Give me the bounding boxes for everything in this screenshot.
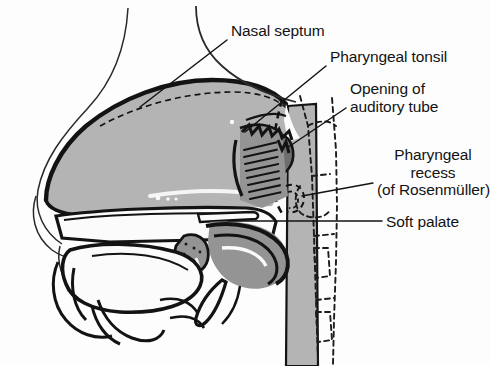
label-soft-palate: Soft palate [386,213,459,231]
label-pharyngeal-recess: Pharyngeal recess (of Rosenmüller) [377,146,489,199]
pharyngeal-tonsil-body [234,125,292,208]
label-nasal-septum: Nasal septum [231,22,325,40]
label-pharyngeal-tonsil: Pharyngeal tonsil [330,48,447,66]
tongue [63,244,202,312]
label-opening-of-auditory-tube: Opening of auditory tube [350,80,438,115]
anatomy-figure: Nasopharynx [0,0,490,366]
